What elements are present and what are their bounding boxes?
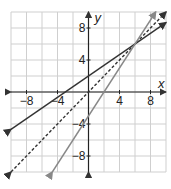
y-tick-label: 4 [79, 53, 86, 67]
x-axis-label: x [157, 76, 165, 91]
x-tick-label: 4 [116, 94, 123, 108]
y-tick-label: −8 [72, 149, 86, 163]
x-tick-label: −8 [20, 94, 34, 108]
coordinate-plane: −8−44884−4−8yx [0, 0, 171, 189]
x-tick-label: 8 [147, 94, 154, 108]
y-tick-label: 8 [79, 21, 86, 35]
